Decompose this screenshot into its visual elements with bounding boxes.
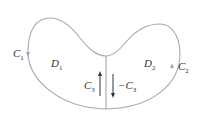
label-c3: C3	[84, 79, 95, 94]
arrow-c2-icon	[170, 63, 174, 68]
label-c2: C2	[178, 60, 189, 75]
arrow-neg-c3-head-icon	[111, 93, 115, 98]
label-d2: D2	[143, 57, 156, 72]
label-d1: D1	[50, 57, 63, 72]
arrow-c1-icon	[26, 52, 30, 57]
arrow-c3-head-icon	[98, 71, 102, 76]
label-c1: C1	[13, 47, 24, 62]
label-neg-c3: −C3	[118, 79, 137, 94]
region-diagram: C1 D1 D2 C2 C3 −C3	[0, 0, 205, 115]
